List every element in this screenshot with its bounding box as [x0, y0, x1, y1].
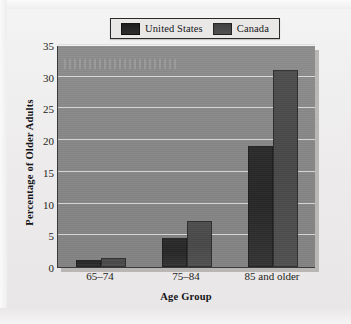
y-tick-label-20: 20	[32, 135, 54, 147]
y-tick-label-0: 0	[32, 262, 54, 274]
page-edge-bottom	[0, 308, 351, 324]
y-tick-label-5: 5	[32, 230, 54, 242]
gridline-35	[58, 44, 315, 45]
page-edge-top	[0, 0, 351, 9]
x-axis-title: Age Group	[57, 291, 315, 302]
y-tick-label-25: 25	[32, 103, 54, 115]
bar-group-0	[58, 46, 144, 267]
x-axis-tick-labels: 65–7475–8485 and older	[57, 270, 315, 286]
legend-swatch-canada	[213, 23, 232, 35]
x-tick-label-1: 75–84	[141, 270, 231, 282]
y-axis-title: Percentage of Older Adults	[24, 68, 35, 258]
bar-canada-1	[187, 221, 212, 267]
y-tick-label-30: 30	[32, 72, 54, 84]
y-tick-label-15: 15	[32, 167, 54, 179]
legend-label-canada: Canada	[237, 23, 269, 34]
bar-group-1	[144, 46, 230, 267]
x-tick-label-2: 85 and older	[227, 270, 317, 282]
y-tick-label-10: 10	[32, 199, 54, 211]
legend-entry-canada: Canada	[213, 23, 269, 35]
bar-group-2	[230, 46, 316, 267]
bar-canada-2	[273, 70, 298, 267]
legend-label-united-states: United States	[145, 23, 203, 34]
bars-layer	[58, 46, 315, 267]
page-edge-left	[0, 0, 7, 324]
chart-legend: United States Canada	[110, 18, 280, 39]
y-tick-label-35: 35	[32, 40, 54, 52]
bar-canada-0	[101, 258, 126, 267]
legend-swatch-united-states	[121, 23, 140, 35]
x-tick-label-0: 65–74	[55, 270, 145, 282]
figure-container: United States Canada 05101520253035 Perc…	[0, 0, 351, 324]
bar-united-states-1	[162, 238, 187, 267]
legend-entry-united-states: United States	[121, 23, 203, 35]
bar-united-states-0	[76, 260, 101, 267]
plot-area	[57, 46, 315, 268]
bar-united-states-2	[248, 146, 273, 267]
